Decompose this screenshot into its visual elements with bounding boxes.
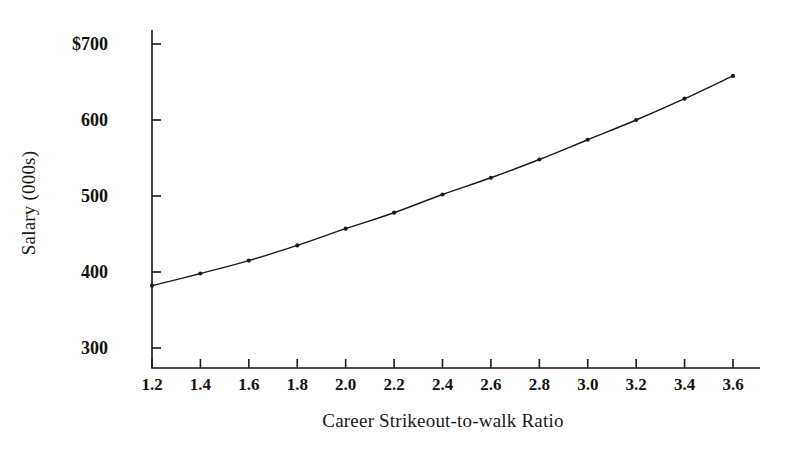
data-point-markers bbox=[150, 74, 735, 288]
data-point bbox=[150, 284, 154, 288]
y-axis-tick-label: 600 bbox=[38, 111, 108, 129]
data-point bbox=[489, 176, 493, 180]
y-axis-tick-label: 500 bbox=[38, 187, 108, 205]
data-point bbox=[586, 138, 590, 142]
x-axis-title: Career Strikeout-to-walk Ratio bbox=[152, 410, 734, 432]
x-axis-ticks bbox=[152, 359, 733, 368]
data-point bbox=[247, 259, 251, 263]
data-point bbox=[295, 243, 299, 247]
data-point bbox=[198, 271, 202, 275]
data-point bbox=[731, 74, 735, 78]
y-axis-tick-label: $700 bbox=[38, 35, 108, 53]
y-axis-ticks bbox=[152, 44, 161, 348]
data-point bbox=[440, 192, 444, 196]
x-axis-tick-label: 3.6 bbox=[705, 376, 761, 393]
data-point bbox=[392, 211, 396, 215]
axis-spines bbox=[152, 30, 760, 368]
data-point bbox=[537, 157, 541, 161]
data-point bbox=[682, 97, 686, 101]
y-axis-title: Salary (000s) bbox=[18, 108, 40, 298]
chart-figure: Salary (000s) Career Strikeout-to-walk R… bbox=[0, 0, 787, 457]
data-point bbox=[634, 118, 638, 122]
x-axis-tick-labels: 1.21.41.61.82.02.22.42.62.83.03.23.43.6 bbox=[0, 376, 787, 404]
data-point bbox=[344, 227, 348, 231]
y-axis-tick-label: 400 bbox=[38, 263, 108, 281]
data-series-line bbox=[152, 76, 733, 286]
y-axis-tick-label: 300 bbox=[38, 339, 108, 357]
